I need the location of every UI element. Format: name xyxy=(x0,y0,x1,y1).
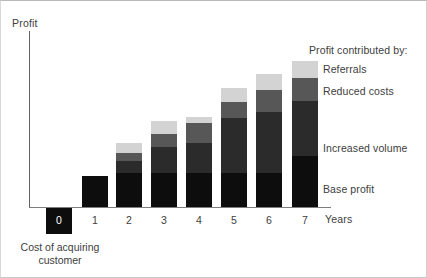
bar-segment xyxy=(82,176,108,207)
bar-segment xyxy=(256,173,282,207)
legend-title: Profit contributed by: xyxy=(309,44,408,56)
bar-segment xyxy=(256,74,282,90)
bar-segment xyxy=(292,156,318,207)
bar-segment xyxy=(256,90,282,112)
x-tick-label-3: 3 xyxy=(151,214,177,226)
bar-segment xyxy=(221,173,247,207)
legend-item-base-profit: Base profit xyxy=(323,183,374,195)
bar-year-2 xyxy=(116,143,142,207)
bar-year-5 xyxy=(221,88,247,207)
bar-segment xyxy=(256,112,282,173)
bar-year-3 xyxy=(151,121,177,207)
cost-caption-line-2: customer xyxy=(11,254,109,267)
bar-segment xyxy=(151,173,177,207)
bar-year-7 xyxy=(292,61,318,207)
bar-year-6 xyxy=(256,74,282,207)
bar-segment xyxy=(292,61,318,78)
bar-segment xyxy=(116,143,142,153)
cost-of-acquiring-label: 0 xyxy=(46,214,72,226)
bar-segment xyxy=(151,147,177,173)
bar-segment xyxy=(116,161,142,173)
bar-segment xyxy=(116,173,142,207)
bar-segment xyxy=(221,118,247,173)
bar-segment xyxy=(186,123,212,143)
chart-figure: Profit Years 0 Cost of acquiring custome… xyxy=(0,0,427,278)
cost-caption-line-1: Cost of acquiring xyxy=(11,241,109,254)
bar-year-4 xyxy=(186,117,212,207)
plot-area xyxy=(1,1,427,278)
x-tick-label-4: 4 xyxy=(186,214,212,226)
cost-of-acquiring-caption: Cost of acquiring customer xyxy=(11,241,109,267)
x-tick-label-6: 6 xyxy=(256,214,282,226)
bar-segment xyxy=(151,134,177,147)
x-tick-label-2: 2 xyxy=(116,214,142,226)
x-tick-label-1: 1 xyxy=(82,214,108,226)
bar-segment xyxy=(186,143,212,173)
legend-item-reduced-costs: Reduced costs xyxy=(323,85,394,97)
bar-segment xyxy=(116,153,142,161)
bar-segment xyxy=(151,121,177,134)
x-tick-label-5: 5 xyxy=(221,214,247,226)
bar-segment xyxy=(221,88,247,102)
bar-year-1 xyxy=(82,176,108,207)
x-tick-label-7: 7 xyxy=(292,214,318,226)
bar-segment xyxy=(186,173,212,207)
bar-segment xyxy=(292,78,318,101)
legend-item-increased-volume: Increased volume xyxy=(323,142,407,154)
legend-item-referrals: Referrals xyxy=(323,63,367,75)
bar-segment xyxy=(221,102,247,118)
bar-segment xyxy=(292,101,318,156)
